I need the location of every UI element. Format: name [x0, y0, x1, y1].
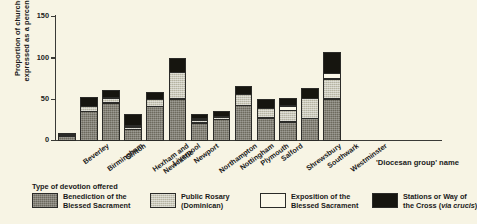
- legend-item[interactable]: Stations or Way ofthe Cross (via crucis): [372, 192, 477, 210]
- legend-label: Stations or Way ofthe Cross (via crucis): [403, 192, 477, 210]
- bar-beverley: [58, 131, 76, 140]
- legend-label-line: Blessed Sacrament: [291, 201, 358, 210]
- legend-title: Type of devotion offered: [32, 182, 118, 191]
- bar-segment: [124, 129, 142, 141]
- legend-label-line: Public Rosary: [181, 192, 230, 201]
- bar-plymouth: [235, 84, 253, 140]
- bar-segment: [301, 98, 319, 119]
- bar-segment: [124, 114, 142, 126]
- legend-label-italic: via crucis: [441, 201, 475, 210]
- bar-newport: [169, 56, 187, 140]
- legend-item[interactable]: Public Rosary(Dominican): [150, 192, 230, 210]
- legend-swatch: [372, 193, 398, 208]
- bar-birmingham: [80, 95, 98, 140]
- bar-segment: [301, 118, 319, 140]
- bar-segment: [301, 88, 319, 100]
- bar-westminster: [323, 49, 341, 140]
- y-axis-title-line1: Proportion of churches,: [13, 0, 22, 76]
- legend-label: Exposition of theBlessed Sacrament: [291, 192, 358, 210]
- bar-salford: [257, 97, 275, 140]
- legend-swatch: [260, 193, 286, 208]
- bar-northampton: [191, 111, 209, 140]
- legend-label: Public Rosary(Dominican): [181, 192, 230, 210]
- x-tick-label: Clifton: [125, 142, 148, 162]
- bar-segment: [235, 94, 253, 106]
- legend-label: Benediction of theBlessed Sacrament: [63, 192, 130, 210]
- bar-hexham-and-newcastle: [124, 111, 142, 140]
- y-axis-tick-label: 50: [27, 95, 49, 102]
- y-axis-tick-label: 150: [27, 12, 49, 19]
- x-tick-label-line: Clifton: [125, 142, 148, 162]
- x-tick-label: Beverley: [82, 142, 111, 166]
- y-axis-tick-mark: [51, 57, 56, 58]
- bar-segment: [323, 99, 341, 141]
- bar-liverpool: [146, 90, 164, 140]
- legend-label-line: Stations or Way of: [403, 192, 477, 201]
- legend-swatch: [32, 193, 58, 208]
- legend-label-line: Blessed Sacrament: [63, 201, 130, 210]
- bar-segment: [169, 72, 187, 99]
- legend-label-line: the Cross (via crucis): [403, 201, 477, 210]
- bar-segment: [102, 103, 120, 141]
- bar-nottingham: [213, 109, 231, 140]
- legend-label-line: (Dominican): [181, 201, 230, 210]
- bar-segment: [146, 106, 164, 141]
- bar-segment: [279, 122, 297, 141]
- y-axis-tick-mark: [51, 140, 56, 141]
- legend-label-line: Benediction of the: [63, 192, 130, 201]
- y-axis-tick-mark: [51, 99, 56, 100]
- bar-shrewsbury: [279, 95, 297, 140]
- y-axis-tick-mark: [51, 16, 56, 17]
- bar-series-area: [56, 16, 365, 140]
- bar-segment: [323, 52, 341, 74]
- bar-segment: [58, 136, 76, 141]
- bar-southwark: [301, 85, 319, 140]
- bar-clifton: [102, 88, 120, 140]
- bar-segment: [80, 111, 98, 141]
- legend: Type of devotion offered Benediction of …: [32, 182, 442, 222]
- bar-segment: [257, 118, 275, 141]
- bar-segment: [323, 79, 341, 100]
- legend-item[interactable]: Exposition of theBlessed Sacrament: [260, 192, 358, 210]
- bar-segment: [279, 110, 297, 122]
- y-axis-tick-label: 0: [27, 136, 49, 143]
- x-tick-label-line: Beverley: [82, 142, 111, 166]
- bar-segment: [191, 123, 209, 141]
- legend-item[interactable]: Benediction of theBlessed Sacrament: [32, 192, 130, 210]
- x-axis-title: 'Diocesan group' name: [376, 158, 459, 167]
- legend-swatch: [150, 193, 176, 208]
- y-axis-tick-label: 100: [27, 54, 49, 61]
- bar-segment: [169, 99, 187, 141]
- x-axis-tick-labels: BeverleyBirminghamCliftonHexham andNewca…: [56, 142, 365, 186]
- bar-segment: [169, 58, 187, 73]
- legend-label-line: Exposition of the: [291, 192, 358, 201]
- bar-segment: [235, 105, 253, 141]
- bar-segment: [213, 119, 231, 140]
